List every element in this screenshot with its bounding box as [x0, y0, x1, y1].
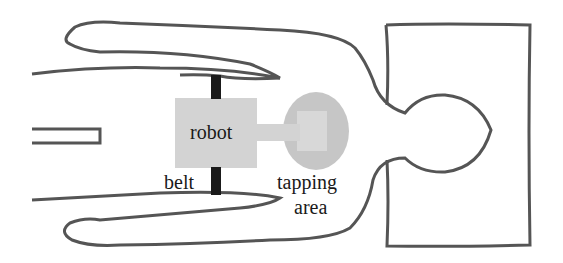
pillow-outline: [386, 24, 530, 246]
robot-label: robot: [190, 122, 232, 142]
tapping-area-inner: [297, 111, 327, 151]
robot-arm: [255, 124, 300, 141]
tapping-area-label-line2: area: [294, 197, 327, 217]
body-diagram-svg: [0, 0, 563, 263]
diagram-canvas: robot belt tapping area: [0, 0, 563, 263]
belt-bottom: [211, 167, 221, 195]
belt-top: [211, 75, 221, 99]
tapping-area-label-line1: tapping: [277, 172, 337, 192]
belt-label: belt: [164, 172, 194, 192]
leg-stub-outline: [32, 129, 100, 143]
